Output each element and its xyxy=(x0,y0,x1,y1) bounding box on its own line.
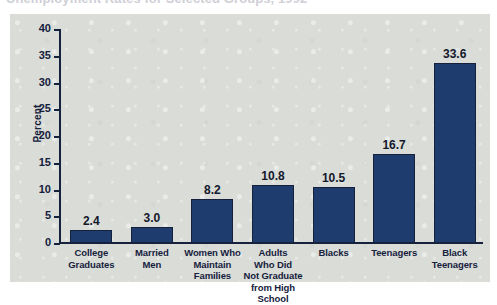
bar-slot: 10.5 xyxy=(303,29,364,243)
bar-value-label: 16.7 xyxy=(364,138,425,152)
bar-value-label: 2.4 xyxy=(61,214,122,228)
bar-value-label: 3.0 xyxy=(122,211,183,225)
bar-value-label: 10.5 xyxy=(303,171,364,185)
bar-slot: 2.4 xyxy=(61,29,122,243)
y-axis-tick-label: 10 xyxy=(11,183,51,195)
plot-area: 2.43.08.210.810.516.733.6 xyxy=(61,29,485,243)
x-axis-category-label: Women WhoMaintainFamilies xyxy=(181,247,243,282)
bar-slot: 16.7 xyxy=(364,29,425,243)
y-axis-tick-label: 5 xyxy=(11,209,51,221)
bar[interactable] xyxy=(252,185,294,243)
chart-title: Unemployment Rates for Selected Groups, … xyxy=(6,0,307,6)
bar[interactable] xyxy=(131,227,173,243)
x-axis-labels: CollegeGraduatesMarriedMenWomen WhoMaint… xyxy=(61,247,485,303)
bar[interactable] xyxy=(373,154,415,243)
y-axis-tick-label: 40 xyxy=(11,22,51,34)
x-axis-category-label: MarriedMen xyxy=(121,247,183,270)
y-axis-tick-label: 15 xyxy=(11,156,51,168)
x-axis-category-label: Blacks xyxy=(303,247,365,259)
chart-panel: Percent 4035302520151050 2.43.08.210.810… xyxy=(10,14,490,282)
bar[interactable] xyxy=(434,63,476,243)
bar-slot: 10.8 xyxy=(243,29,304,243)
bar-slot: 8.2 xyxy=(182,29,243,243)
bar-value-label: 10.8 xyxy=(243,169,304,183)
bar-value-label: 8.2 xyxy=(182,183,243,197)
bar-slot: 33.6 xyxy=(424,29,485,243)
bar-slot: 3.0 xyxy=(122,29,183,243)
y-axis-tick-label: 20 xyxy=(11,129,51,141)
y-axis-tick-label: 35 xyxy=(11,49,51,61)
bar[interactable] xyxy=(191,199,233,243)
bar[interactable] xyxy=(70,230,112,243)
x-axis-category-label: AdultsWho DidNot Graduatefrom High Schoo… xyxy=(242,247,304,305)
y-axis: 4035302520151050 xyxy=(10,14,60,282)
bar[interactable] xyxy=(313,187,355,243)
x-axis-category-label: CollegeGraduates xyxy=(60,247,122,270)
y-axis-tick-label: 30 xyxy=(11,76,51,88)
bar-value-label: 33.6 xyxy=(424,47,485,61)
y-axis-tick-label: 0 xyxy=(11,236,51,248)
x-axis-category-label: Teenagers xyxy=(363,247,425,259)
chart-title-strip: Unemployment Rates for Selected Groups, … xyxy=(0,0,497,9)
y-axis-tick-label: 25 xyxy=(11,102,51,114)
x-axis-category-label: BlackTeenagers xyxy=(424,247,486,270)
